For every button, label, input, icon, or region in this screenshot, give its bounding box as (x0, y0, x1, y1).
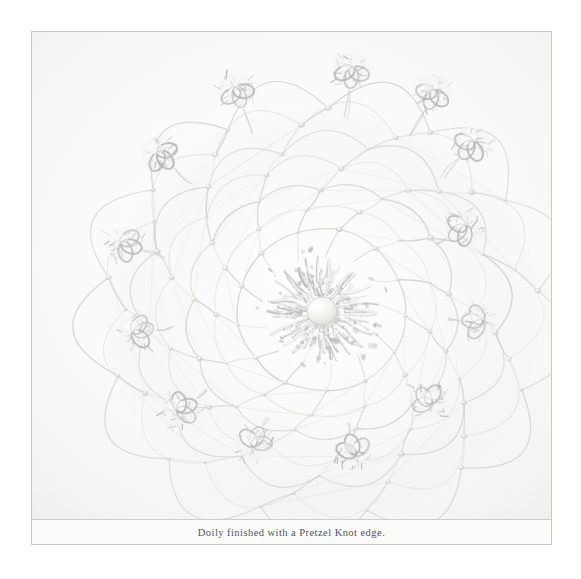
doily-photograph (32, 32, 551, 519)
caption-strip: Doily finished with a Pretzel Knot edge. (32, 520, 551, 544)
screenshot-root: Doily finished with a Pretzel Knot edge. (0, 0, 581, 579)
doily-illustration (32, 32, 551, 519)
pretzel-knot-motif (331, 53, 371, 89)
pretzel-knot-motif (213, 70, 254, 109)
plate-caption: Doily finished with a Pretzel Knot edge. (198, 527, 385, 538)
